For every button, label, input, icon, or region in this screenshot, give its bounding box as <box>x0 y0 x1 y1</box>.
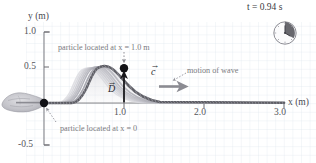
y-tick-0p5: 0.5 <box>24 61 36 71</box>
x-tick-1: 1.0 <box>114 107 126 117</box>
vector-arrow-D: → <box>108 77 117 87</box>
particle-at-peak-dot <box>120 64 128 72</box>
y-tick-1: 1.0 <box>24 26 36 36</box>
annotation-wave-motion: motion of wave <box>187 66 238 75</box>
vector-label-c: → c <box>151 66 155 77</box>
annotation-origin-particle: particle located at x = 0 <box>60 124 137 133</box>
x-axis-title: x (m) <box>288 97 309 107</box>
clock-icon <box>274 22 296 44</box>
y-tick-neg0p5: -0.5 <box>18 139 33 149</box>
y-axis-title: y (m) <box>28 11 49 21</box>
x-tick-3: 3.0 <box>274 107 286 117</box>
annotation-peak-particle: particle located at x = 1.0 m <box>58 43 150 52</box>
vector-label-D: → D <box>108 83 115 94</box>
vector-arrow-c: → <box>151 60 160 70</box>
x-tick-2: 2.0 <box>194 107 206 117</box>
time-label: t = 0.94 s <box>247 2 282 12</box>
particle-at-origin-dot <box>40 99 48 107</box>
wave-pulse-figure: t = 0.94 s y (m) x (m) 1.0 0.5 -0.5 1.0 … <box>0 0 316 163</box>
figure-canvas <box>0 0 316 163</box>
